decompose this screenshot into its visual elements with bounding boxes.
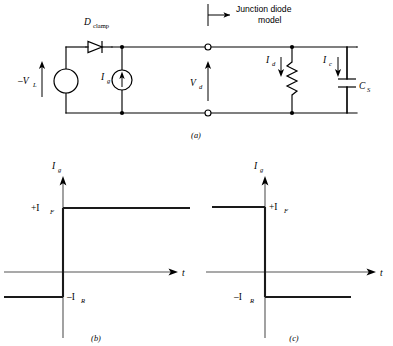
axes-b bbox=[4, 176, 178, 338]
junction-diode-model-pointer bbox=[208, 4, 230, 26]
figure-root: Junction diode model bbox=[0, 0, 393, 346]
terminal-node-bottom bbox=[205, 110, 211, 116]
diode-voltage-label-sub: d bbox=[199, 83, 203, 90]
current-source-symbol bbox=[112, 70, 132, 90]
y-axis-label-b: I bbox=[51, 161, 56, 171]
waveform-panel-c: I g t +I F –I R (c) bbox=[196, 148, 393, 346]
caption-c: (c) bbox=[289, 334, 299, 343]
circuit-diagram-panel-a: Junction diode model bbox=[0, 0, 393, 148]
level-label-ir-b: –I bbox=[66, 292, 75, 302]
level-label-if-sub-b: F bbox=[49, 208, 55, 215]
terminal-node-top bbox=[205, 44, 211, 50]
x-axis-label-b: t bbox=[182, 268, 185, 278]
capacitor-label-sub: S bbox=[367, 86, 371, 93]
junction-dot-top-resistor bbox=[290, 45, 294, 49]
cap-current-label: I bbox=[322, 55, 327, 65]
caption-a: (a) bbox=[191, 131, 201, 140]
junction-dot-bottom-ig bbox=[120, 111, 124, 115]
waveform-panel-b: I g t +I F –I R (b) bbox=[0, 148, 196, 346]
diode-label: D bbox=[83, 17, 91, 27]
cap-current-label-sub: c bbox=[329, 60, 332, 67]
voltage-source-arrow bbox=[39, 61, 45, 97]
axes-c bbox=[206, 176, 376, 338]
level-label-if-b: +I bbox=[31, 203, 40, 213]
diode-label-sub: clamp bbox=[93, 22, 110, 29]
capacitor-symbol bbox=[338, 79, 356, 87]
voltage-source-label-sub: L bbox=[32, 81, 37, 88]
y-axis-label-sub-b: g bbox=[58, 166, 62, 173]
level-label-if-c: +I bbox=[269, 202, 278, 212]
annotation-line-2: model bbox=[258, 15, 281, 25]
caption-b: (b) bbox=[91, 334, 101, 343]
current-source-label: I bbox=[100, 72, 105, 82]
x-axis-label-c: t bbox=[380, 268, 383, 278]
diode-symbol bbox=[86, 41, 112, 53]
diode-current-label: I bbox=[265, 55, 270, 65]
capacitor-label: C bbox=[359, 81, 366, 91]
diode-current-label-sub: d bbox=[272, 60, 276, 67]
voltage-source-label: –V bbox=[17, 76, 30, 86]
level-label-if-sub-c: F bbox=[283, 207, 289, 214]
level-label-ir-c: –I bbox=[233, 292, 242, 302]
diode-current-arrow bbox=[278, 57, 284, 77]
resistor-symbol bbox=[287, 62, 297, 95]
junction-dot-top-ig bbox=[120, 45, 124, 49]
y-axis-label-c: I bbox=[253, 161, 258, 171]
cap-current-arrow bbox=[335, 57, 341, 77]
signal-trace-c bbox=[212, 207, 351, 297]
current-source-label-sub: g bbox=[107, 77, 111, 84]
diode-voltage-arrow bbox=[205, 61, 211, 101]
level-label-ir-sub-b: R bbox=[80, 297, 85, 304]
diode-voltage-label: V bbox=[190, 78, 197, 88]
y-axis-label-sub-c: g bbox=[260, 166, 264, 173]
voltage-source-symbol bbox=[54, 69, 78, 93]
level-label-ir-sub-c: R bbox=[249, 297, 254, 304]
annotation-line-1: Junction diode bbox=[236, 4, 292, 14]
signal-trace-b bbox=[4, 208, 190, 297]
junction-dot-bottom-resistor bbox=[290, 111, 294, 115]
